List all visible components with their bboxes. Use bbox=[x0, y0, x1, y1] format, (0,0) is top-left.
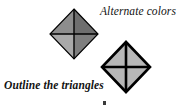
outline-triangles-label: Outline the triangles bbox=[4, 80, 104, 92]
figure-canvas: Alternate colors Outline the triangles bbox=[0, 0, 182, 108]
page-mark bbox=[103, 101, 106, 105]
lower-diamond-group bbox=[102, 42, 150, 92]
upper-diamond-group bbox=[50, 9, 98, 59]
alternate-colors-label: Alternate colors bbox=[100, 6, 176, 18]
